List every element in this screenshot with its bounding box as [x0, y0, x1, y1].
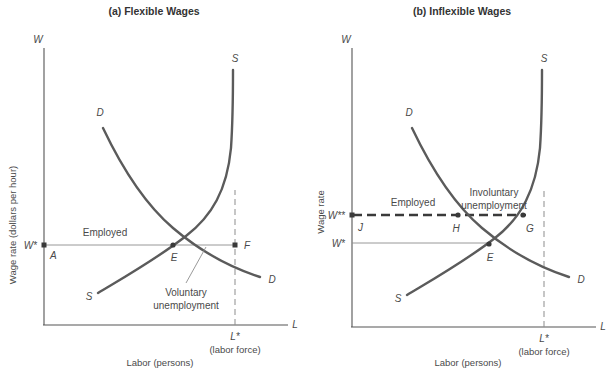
- panel-b-x-axis-caption: Labor (persons): [434, 357, 501, 368]
- panel-b-point-g-label: G: [526, 223, 534, 234]
- panel-b-point-j-marker: [350, 213, 355, 218]
- panel-b-labor-force-label: L*: [539, 333, 550, 344]
- panel-a-voluntary-unemployment-leader: [186, 247, 206, 283]
- panel-a-x-axis-caption: Labor (persons): [126, 357, 193, 368]
- panel-inflexible-wages: (b) Inflexible Wages W L Wage rate Labor…: [308, 0, 616, 373]
- panel-a-demand-curve: [103, 128, 260, 277]
- panel-b-point-e-marker: [486, 241, 491, 246]
- panel-b-point-j-label: J: [357, 222, 364, 233]
- panel-a-point-f-label: F: [244, 240, 251, 251]
- panel-flexible-wages: (a) Flexible Wages W L Wage rate (dollar…: [0, 0, 308, 373]
- panel-b-demand-label-bottom: D: [577, 274, 584, 285]
- panel-b-y-axis-caption: Wage rate: [315, 190, 326, 233]
- panel-a-demand-label-bottom: D: [268, 274, 275, 285]
- panel-a-point-e-marker: [170, 242, 175, 247]
- panel-a-employed-label: Employed: [83, 227, 127, 238]
- panel-a-supply-label-top: S: [232, 53, 239, 64]
- panel-a-y-axis-symbol: W: [33, 34, 44, 45]
- panel-a-supply-label-bottom: S: [86, 291, 93, 302]
- panel-b-x-axis-symbol: L: [600, 321, 606, 332]
- panel-a-labor-force-note: (labor force): [209, 344, 260, 355]
- panel-a-voluntary-unemployment-line2: unemployment: [153, 300, 219, 311]
- panel-a-point-a-label: A: [49, 250, 57, 261]
- panel-a-labor-force-label: L*: [230, 331, 241, 342]
- panel-a-point-e-label: E: [171, 252, 178, 263]
- panel-b-supply-label-bottom: S: [395, 293, 402, 304]
- panel-b-wage-equilibrium-label: W*: [332, 238, 346, 249]
- panel-b-point-g-marker: [520, 212, 525, 217]
- panel-b-wage-rigid-label: W**: [328, 210, 346, 221]
- figure-root: (a) Flexible Wages W L Wage rate (dollar…: [0, 0, 616, 373]
- panel-b-point-e-label: E: [487, 252, 494, 263]
- panel-a-point-a-marker: [42, 243, 47, 248]
- panel-a-x-axis-symbol: L: [292, 319, 298, 330]
- panel-a-voluntary-unemployment-line1: Voluntary: [165, 287, 207, 298]
- panel-b-supply-curve: [407, 70, 542, 295]
- panel-a-title: (a) Flexible Wages: [108, 5, 199, 17]
- panel-b-point-h-label: H: [452, 223, 460, 234]
- panel-b-supply-label-top: S: [541, 53, 548, 64]
- panel-a-supply-curve: [98, 70, 233, 293]
- panel-b-involuntary-unemployment-line2: unemployment: [461, 200, 527, 211]
- panel-b-labor-force-note: (labor force): [518, 346, 569, 357]
- panel-b-demand-label-top: D: [405, 107, 412, 118]
- panel-a-point-f-marker: [233, 243, 238, 248]
- panel-b-employed-label: Employed: [391, 197, 435, 208]
- panel-b-involuntary-unemployment-line1: Involuntary: [470, 187, 519, 198]
- panel-b-title: (b) Inflexible Wages: [413, 5, 511, 17]
- panel-a-wage-equilibrium-label: W*: [24, 240, 38, 251]
- panel-b-y-axis-symbol: W: [341, 34, 352, 45]
- panel-a-y-axis-caption: Wage rate (dollars per hour): [7, 166, 18, 284]
- panel-a-demand-label-top: D: [96, 107, 103, 118]
- panel-b-point-h-marker: [455, 212, 460, 217]
